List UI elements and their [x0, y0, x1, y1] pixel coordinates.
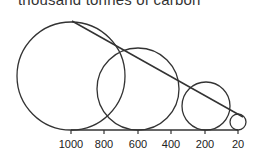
circle-20	[230, 114, 246, 130]
tick-label-400: 400	[162, 138, 180, 150]
tick-label-800: 800	[95, 138, 113, 150]
envelope-line	[72, 21, 243, 117]
circle-1000	[17, 22, 125, 130]
tick-label-1000: 1000	[59, 138, 83, 150]
carbon-scale-diagram: 100080060040020020	[0, 0, 263, 154]
tick-label-600: 600	[129, 138, 147, 150]
circle-600	[97, 48, 179, 130]
tick-label-200: 200	[196, 138, 214, 150]
tick-label-20: 20	[232, 138, 244, 150]
